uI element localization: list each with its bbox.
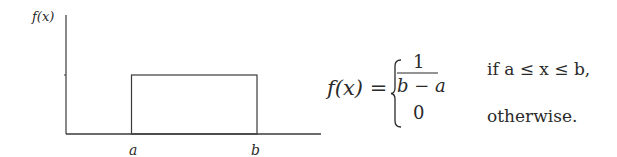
density-rectangle [132,75,258,134]
x-tick-label-a: a [129,143,137,157]
y-axis-label: f(x) [32,10,54,23]
case1-condition: if a ≤ x ≤ b, [487,61,590,78]
x-tick-label-b: b [251,143,260,157]
case2-condition: otherwise. [487,108,577,125]
case2-value: 0 [413,104,424,122]
formula-lhs: f(x) = [327,78,387,99]
fraction-denominator: b − a [397,77,446,95]
fraction-numerator: 1 [413,53,424,71]
